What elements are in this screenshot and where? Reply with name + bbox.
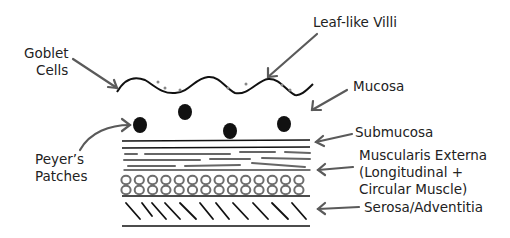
label-villi: Leaf-like Villi (313, 14, 397, 31)
serosa-hatch (126, 203, 306, 219)
label-peyers-patches: Peyer’s Patches (35, 151, 87, 185)
label-submucosa: Submucosa (355, 124, 433, 141)
label-serosa: Serosa/Adventitia (364, 199, 483, 216)
label-muscularis-externa: Muscularis Externa (Longitudinal + Circu… (359, 147, 487, 198)
villi-wave (117, 77, 313, 95)
peyers-patches-dots (133, 104, 291, 139)
longitudinal-muscle (124, 152, 310, 170)
circular-muscle (121, 176, 303, 194)
label-mucosa: Mucosa (353, 78, 404, 95)
label-goblet-cells: Goblet Cells (24, 45, 69, 79)
